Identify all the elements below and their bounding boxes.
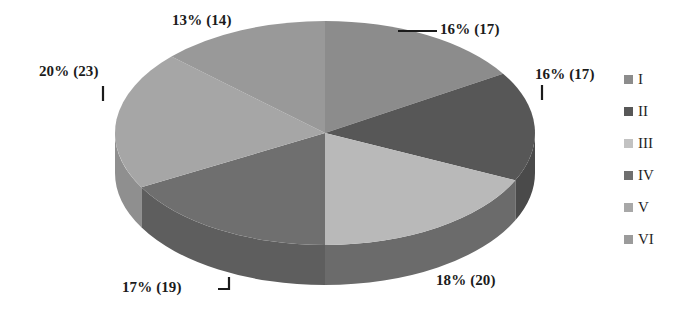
slice-label-vi: 13% (14) xyxy=(172,12,232,29)
slice-label-iv: 17% (19) xyxy=(122,279,182,296)
legend-item-iii[interactable]: III xyxy=(624,127,690,159)
slice-label-v: 20% (23) xyxy=(39,63,99,80)
legend-item-v[interactable]: V xyxy=(624,191,690,223)
legend-swatch-icon-iii xyxy=(624,139,633,148)
slice-label-iii: 18% (20) xyxy=(436,272,496,289)
legend-label: IV xyxy=(638,168,654,183)
slice-label-ii: 16% (17) xyxy=(535,66,595,83)
leader-line-slice-iv xyxy=(218,277,229,289)
legend-swatch-icon-ii xyxy=(624,107,633,116)
pie-chart-canvas xyxy=(0,0,693,321)
legend-label: I xyxy=(638,72,643,87)
legend-label: V xyxy=(638,200,649,215)
pie-slice-group xyxy=(115,21,535,245)
legend-item-ii[interactable]: II xyxy=(624,95,690,127)
legend-item-iv[interactable]: IV xyxy=(624,159,690,191)
legend-label: VI xyxy=(638,232,654,247)
legend-swatch-icon-i xyxy=(624,75,633,84)
legend-swatch-icon-vi xyxy=(624,235,633,244)
pie-chart-figure: 16% (17) 16% (17) 18% (20) 17% (19) 20% … xyxy=(0,0,693,321)
chart-legend: IIIIIIIVVVI xyxy=(624,63,690,263)
legend-swatch-icon-iv xyxy=(624,171,633,180)
legend-item-vi[interactable]: VI xyxy=(624,223,690,255)
legend-label: II xyxy=(638,104,648,119)
legend-item-i[interactable]: I xyxy=(624,63,690,95)
slice-label-i: 16% (17) xyxy=(440,21,500,38)
legend-swatch-icon-v xyxy=(624,203,633,212)
legend-label: III xyxy=(638,136,653,151)
